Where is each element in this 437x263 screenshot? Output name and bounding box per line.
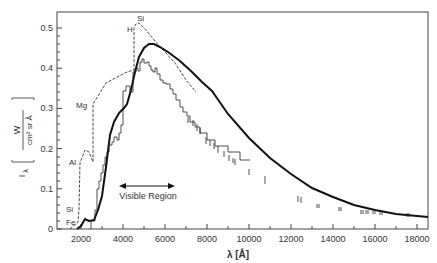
y-tick-label: 0.5 bbox=[40, 23, 53, 33]
blackbody-series bbox=[77, 44, 428, 229]
annotation-mg: Mg bbox=[76, 101, 87, 110]
y-tick-labels: 0 0.1 0.2 0.3 0.4 0.5 bbox=[40, 23, 53, 234]
x-tick-label: 14000 bbox=[320, 234, 345, 244]
x-tick-label: 16000 bbox=[362, 234, 387, 244]
x-tick-labels: 2000 4000 6000 8000 10000 12000 14000 16… bbox=[71, 234, 430, 244]
y-tick-label: 0.1 bbox=[40, 184, 53, 194]
x-axis bbox=[81, 224, 417, 229]
y-label-symbol: I bbox=[17, 175, 27, 178]
absorption-line-marks bbox=[188, 117, 409, 217]
annotation-si-low: Si bbox=[66, 205, 73, 214]
annotation-al: Al bbox=[69, 158, 76, 167]
measured-series bbox=[91, 59, 250, 229]
x-tick-label: 18000 bbox=[404, 234, 429, 244]
y-label-numerator: W bbox=[12, 125, 22, 134]
y-axis-label: I λ W cm² sr Å bbox=[12, 98, 34, 177]
y-axis bbox=[57, 28, 62, 229]
annotation-h: H bbox=[127, 25, 133, 34]
annotation-fe: Fe bbox=[66, 218, 76, 227]
x-tick-label: 4000 bbox=[113, 234, 133, 244]
x-tick-label: 10000 bbox=[236, 234, 261, 244]
visible-region-label: Visible Region bbox=[119, 191, 176, 201]
x-tick-label: 12000 bbox=[278, 234, 303, 244]
visible-region-annotation: Visible Region bbox=[119, 183, 177, 201]
y-tick-label: 0.3 bbox=[40, 103, 53, 113]
x-axis-label: λ [Å] bbox=[227, 248, 249, 260]
y-label-denominator: cm² sr Å bbox=[25, 114, 34, 144]
y-tick-label: 0.4 bbox=[40, 63, 53, 73]
y-tick-label: 0 bbox=[48, 224, 53, 234]
x-tick-label: 2000 bbox=[71, 234, 91, 244]
x-tick-label: 8000 bbox=[197, 234, 217, 244]
plot-frame bbox=[57, 12, 428, 229]
annotation-si-top: Si bbox=[137, 14, 144, 23]
y-label-subscript: λ bbox=[22, 169, 29, 173]
x-tick-label: 6000 bbox=[155, 234, 175, 244]
arrow-right-icon bbox=[168, 183, 175, 189]
y-tick-label: 0.2 bbox=[40, 144, 53, 154]
solar-spectrum-chart: 0 0.1 0.2 0.3 0.4 0.5 I λ W cm² sr Å 200… bbox=[0, 0, 437, 263]
arrow-left-icon bbox=[119, 183, 126, 189]
